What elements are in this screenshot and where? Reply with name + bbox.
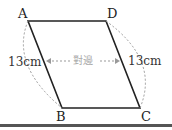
- left-side-length: 13cm: [8, 56, 41, 68]
- arrow-left-head-icon: [46, 58, 51, 64]
- vertex-label-c: C: [141, 110, 151, 123]
- vertex-label-d: D: [107, 7, 117, 20]
- vertex-label-a: A: [18, 7, 27, 20]
- vertex-label-b: B: [56, 110, 66, 123]
- arrow-right-head-icon: [115, 58, 120, 64]
- bottom-divider: [0, 124, 172, 127]
- right-side-length: 13cm: [128, 55, 161, 67]
- opposite-side-label: 對邊: [73, 56, 93, 66]
